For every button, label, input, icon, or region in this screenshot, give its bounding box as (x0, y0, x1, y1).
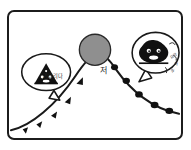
left-bubble-text: 기다리다 (38, 71, 68, 80)
peak-marker (79, 34, 110, 65)
illustration-canvas: 저 기다리다 으악 어 아 (0, 0, 191, 150)
peak-marker-label: 저 (93, 63, 113, 79)
panel-frame: 저 기다리다 으악 어 아 (7, 10, 183, 140)
